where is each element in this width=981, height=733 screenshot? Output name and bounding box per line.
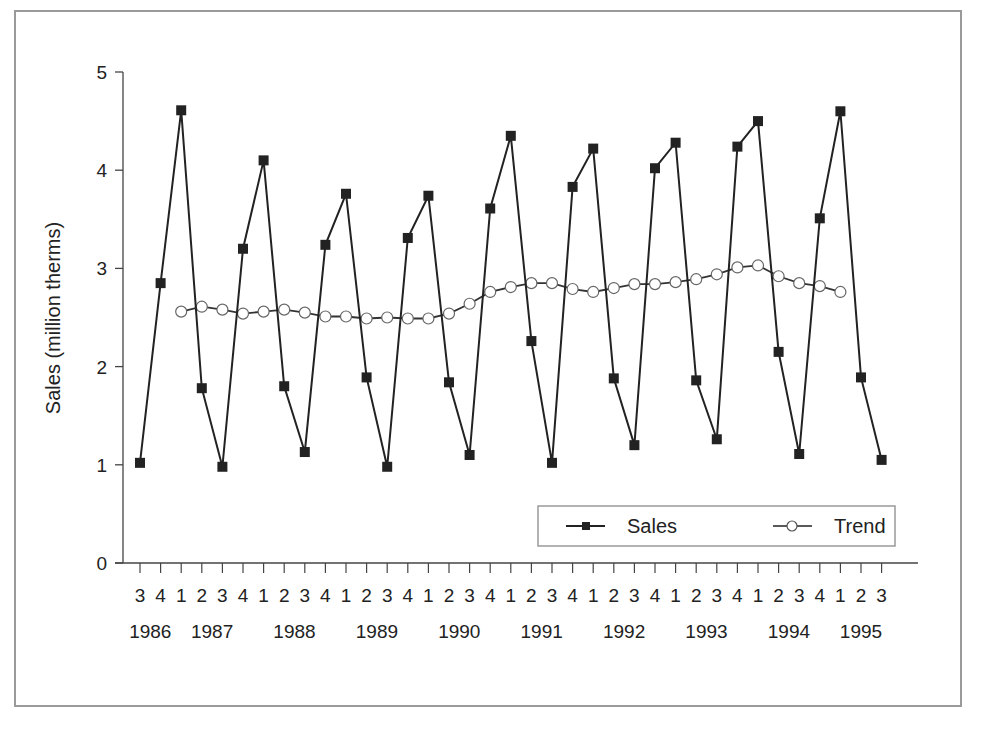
x-quarter-label: 4 <box>155 585 166 606</box>
x-quarter-label: 4 <box>485 585 496 606</box>
trend-point <box>794 278 805 289</box>
sales-point <box>774 347 784 357</box>
x-quarter-label: 2 <box>526 585 537 606</box>
x-quarter-label: 1 <box>176 585 187 606</box>
x-quarter-label: 4 <box>650 585 661 606</box>
y-axis-title: Sales (million therms) <box>42 222 64 414</box>
trend-point <box>588 286 599 297</box>
sales-point <box>712 434 722 444</box>
sales-point <box>423 191 433 201</box>
trend-point <box>670 277 681 288</box>
sales-point <box>403 233 413 243</box>
trend-point <box>485 286 496 297</box>
x-quarter-label: 1 <box>423 585 434 606</box>
trend-point <box>444 308 455 319</box>
trend-point <box>464 298 475 309</box>
sales-point <box>485 203 495 213</box>
sales-point <box>135 458 145 468</box>
sales-point <box>465 450 475 460</box>
sales-point <box>238 244 248 254</box>
trend-point <box>773 271 784 282</box>
sales-point <box>341 189 351 199</box>
sales-point <box>815 213 825 223</box>
x-year-label: 1988 <box>273 621 315 642</box>
y-axis: 012345 <box>96 62 123 574</box>
x-year-label: 1986 <box>129 621 171 642</box>
x-quarter-label: 1 <box>753 585 764 606</box>
sales-point <box>362 372 372 382</box>
sales-point <box>156 278 166 288</box>
x-quarter-label: 4 <box>567 585 578 606</box>
legend: Sales Trend <box>538 506 895 546</box>
y-tick-label: 4 <box>96 160 107 181</box>
trend-point <box>629 279 640 290</box>
y-tick-label: 0 <box>96 553 107 574</box>
sales-point <box>547 458 557 468</box>
x-year-label: 1987 <box>191 621 233 642</box>
trend-point <box>753 260 764 271</box>
y-tick-label: 2 <box>96 357 107 378</box>
trend-point <box>547 278 558 289</box>
x-year-label: 1993 <box>685 621 727 642</box>
trend-point <box>691 274 702 285</box>
sales-point <box>732 142 742 152</box>
x-quarter-label: 3 <box>547 585 558 606</box>
trend-point <box>196 301 207 312</box>
y-tick-label: 1 <box>96 455 107 476</box>
trend-point <box>567 284 578 295</box>
x-quarter-label: 2 <box>856 585 867 606</box>
x-quarter-label: 1 <box>835 585 846 606</box>
x-quarter-label: 1 <box>341 585 352 606</box>
x-quarter-label: 1 <box>670 585 681 606</box>
trend-point <box>217 304 228 315</box>
sales-point <box>176 105 186 115</box>
trend-point <box>608 283 619 294</box>
sales-point <box>629 440 639 450</box>
line-chart: 012345 341234123412341234123412341234123… <box>0 0 981 733</box>
x-quarter-label: 3 <box>464 585 475 606</box>
x-year-label: 1995 <box>840 621 882 642</box>
x-quarter-label: 3 <box>629 585 640 606</box>
x-quarter-label: 3 <box>876 585 887 606</box>
sales-point <box>691 375 701 385</box>
y-tick-label: 3 <box>96 258 107 279</box>
trend-point <box>176 306 187 317</box>
x-year-label: 1990 <box>438 621 480 642</box>
x-year-label: 1992 <box>603 621 645 642</box>
trend-point <box>279 304 290 315</box>
x-quarter-label: 3 <box>382 585 393 606</box>
x-quarter-label: 1 <box>258 585 269 606</box>
trend-point <box>732 262 743 273</box>
legend-trend-label: Trend <box>834 515 886 537</box>
sales-point <box>382 462 392 472</box>
x-quarter-label: 4 <box>238 585 249 606</box>
sales-point <box>753 116 763 126</box>
trend-point <box>423 313 434 324</box>
sales-point <box>877 455 887 465</box>
sales-point <box>444 377 454 387</box>
x-quarter-label: 2 <box>279 585 290 606</box>
sales-point <box>568 182 578 192</box>
sales-point <box>671 138 681 148</box>
x-quarter-label: 2 <box>773 585 784 606</box>
x-quarter-label: 2 <box>361 585 372 606</box>
x-quarter-label: 2 <box>691 585 702 606</box>
x-year-label: 1991 <box>521 621 563 642</box>
sales-point <box>259 155 269 165</box>
sales-point <box>835 106 845 116</box>
x-quarter-label: 3 <box>794 585 805 606</box>
x-quarter-label: 3 <box>300 585 311 606</box>
x-quarter-label: 3 <box>712 585 723 606</box>
sales-point <box>609 373 619 383</box>
x-quarter-label: 2 <box>444 585 455 606</box>
x-quarter-label: 2 <box>609 585 620 606</box>
sales-point <box>217 462 227 472</box>
x-quarter-label: 4 <box>320 585 331 606</box>
trend-point <box>650 279 661 290</box>
trend-point <box>341 311 352 322</box>
sales-point <box>197 383 207 393</box>
x-quarter-label: 4 <box>815 585 826 606</box>
x-quarter-label: 3 <box>135 585 146 606</box>
x-quarter-label: 4 <box>732 585 743 606</box>
sales-point <box>526 336 536 346</box>
